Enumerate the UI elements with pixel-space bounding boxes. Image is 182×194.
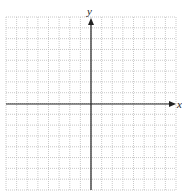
coordinate-grid — [0, 0, 182, 194]
x-axis-arrow-icon — [169, 101, 176, 107]
x-axis-label: x — [177, 99, 182, 110]
y-axis-label: y — [87, 6, 92, 17]
y-axis-arrow-icon — [88, 18, 94, 25]
axes — [6, 18, 176, 190]
